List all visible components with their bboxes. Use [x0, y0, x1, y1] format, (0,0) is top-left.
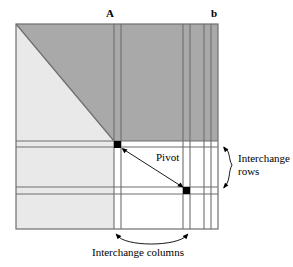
matrix-fill-regions [16, 24, 218, 229]
interchange-rows-brace [223, 147, 232, 189]
pivot-marker-current [114, 141, 121, 148]
brace-arrowhead-bottom [223, 183, 228, 189]
brace-curve [224, 147, 232, 188]
columns-arc [117, 235, 187, 244]
vector-label-b: b [211, 8, 217, 19]
interchange-rows-label-line1: Interchange [238, 153, 290, 164]
figure-container: A b Pivot Interchange rows Interchange c… [0, 0, 293, 267]
interchange-columns-arrow [116, 233, 189, 244]
interchange-rows-label-line2: rows [238, 166, 259, 177]
lu-decomposition-pivot-diagram [0, 0, 293, 267]
pivot-annotation-label: Pivot [156, 152, 179, 163]
interchange-columns-label: Interchange columns [92, 247, 184, 258]
pivot-marker-selected [183, 187, 190, 194]
matrix-label-a: A [106, 8, 114, 19]
